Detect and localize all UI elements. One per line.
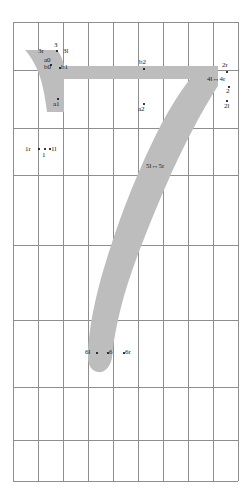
label-b0: b0 xyxy=(44,64,51,71)
label-2: 2 xyxy=(226,88,230,95)
point-1-marker[interactable] xyxy=(44,148,46,150)
glyph-editor-canvas[interactable]: 3r 3 3l a0 b0 b1 a1 b2 a2 2r 4l↔4r 2 2l … xyxy=(0,0,247,496)
label-4l-4r: 4l↔4r xyxy=(207,76,225,83)
glyph-outline-path xyxy=(25,50,218,372)
label-3r: 3r xyxy=(38,48,44,55)
point-2r[interactable] xyxy=(226,71,228,73)
label-6: 6 xyxy=(109,349,113,356)
label-b2: b2 xyxy=(139,59,146,66)
point-3[interactable] xyxy=(56,50,58,52)
point-b2[interactable] xyxy=(143,68,145,70)
label-3l: 3l xyxy=(63,48,68,55)
label-1r: 1r xyxy=(25,146,31,153)
label-5l-5r: 5l↔5r xyxy=(146,163,164,170)
point-6l[interactable] xyxy=(96,352,98,354)
label-a1: a1 xyxy=(53,101,60,108)
label-3: 3 xyxy=(54,42,58,49)
label-2r: 2r xyxy=(222,62,228,69)
label-2l: 2l xyxy=(224,103,229,110)
label-6l: 6l xyxy=(85,349,90,356)
label-a2: a2 xyxy=(138,106,145,113)
label-1: 1 xyxy=(42,152,46,159)
label-b1: b1 xyxy=(61,64,68,71)
label-1l: 1l xyxy=(51,146,56,153)
point-1r-marker[interactable] xyxy=(38,148,40,150)
label-6r: 6r xyxy=(125,349,131,356)
